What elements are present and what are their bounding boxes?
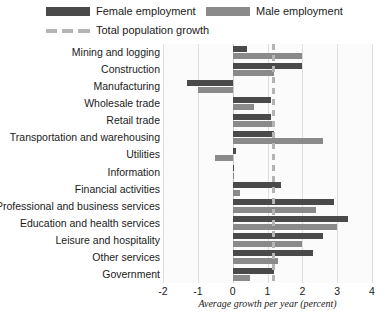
bar-row: [163, 164, 372, 181]
category-label: Mining and logging: [72, 44, 160, 61]
x-tick-label: 4: [369, 285, 375, 297]
bar-male: [233, 173, 234, 179]
bar-female: [233, 268, 275, 274]
legend-label-total-population-growth: Total population growth: [96, 25, 209, 36]
category-label: Professional and business services: [0, 198, 160, 215]
x-tick-label: 3: [334, 285, 340, 297]
legend-item-total-population-growth: Total population growth: [46, 25, 209, 36]
bar-row: [163, 215, 372, 232]
bar-male: [233, 275, 250, 281]
bar-male: [233, 70, 275, 76]
bar-chart: Female employment Male employment Total …: [0, 0, 385, 319]
legend-label-male-employment: Male employment: [256, 6, 343, 17]
plot-area: [163, 44, 372, 283]
bar-male: [233, 138, 324, 144]
bar-male: [233, 121, 275, 127]
category-label: Manufacturing: [93, 78, 160, 95]
legend-label-female-employment: Female employment: [96, 6, 196, 17]
category-label: Transportation and warehousing: [10, 129, 160, 146]
x-tick-label: -2: [158, 285, 167, 297]
bar-male: [233, 241, 303, 247]
bar-row: [163, 61, 372, 78]
legend-item-male-employment: Male employment: [206, 6, 343, 17]
bar-row: [163, 95, 372, 112]
solid-dark-swatch-icon: [46, 7, 90, 16]
bar-female: [233, 63, 303, 69]
bar-male: [215, 155, 232, 161]
bar-row: [163, 249, 372, 266]
bar-female: [233, 165, 234, 171]
bar-rows: [163, 44, 372, 283]
category-label: Utilities: [126, 146, 160, 163]
bar-female: [233, 131, 275, 137]
x-axis-ticks: -2-101234: [163, 285, 372, 299]
category-label: Wholesale trade: [84, 95, 160, 112]
bar-row: [163, 232, 372, 249]
bar-row: [163, 78, 372, 95]
bar-female: [233, 199, 334, 205]
x-tick-label: 0: [230, 285, 236, 297]
bar-row: [163, 266, 372, 283]
category-label: Financial activities: [75, 181, 160, 198]
bar-male: [233, 104, 254, 110]
bar-female: [187, 80, 232, 86]
bar-female: [233, 114, 271, 120]
category-label: Leisure and hospitality: [56, 232, 160, 249]
bar-row: [163, 146, 372, 163]
bar-female: [233, 216, 348, 222]
category-label: Government: [102, 266, 160, 283]
solid-gray-swatch-icon: [206, 7, 250, 16]
bar-row: [163, 181, 372, 198]
bar-male: [198, 87, 233, 93]
x-axis-label: Average growth per year (percent): [163, 298, 372, 309]
gridline-4: [372, 44, 373, 283]
bar-row: [163, 198, 372, 215]
total-population-growth-reference-line: [272, 44, 275, 283]
x-tick-label: -1: [193, 285, 202, 297]
bar-row: [163, 129, 372, 146]
bar-female: [233, 97, 271, 103]
dashed-line-swatch-icon: [46, 26, 90, 35]
bar-row: [163, 44, 372, 61]
category-label: Retail trade: [106, 112, 160, 129]
category-label: Construction: [101, 61, 160, 78]
bar-male: [233, 224, 338, 230]
bar-male: [233, 190, 240, 196]
bar-row: [163, 112, 372, 129]
x-tick-label: 2: [299, 285, 305, 297]
category-label: Information: [107, 164, 160, 181]
x-tick-label: 1: [265, 285, 271, 297]
chart-legend: Female employment Male employment Total …: [0, 0, 385, 44]
bar-female: [233, 233, 324, 239]
legend-item-female-employment: Female employment: [46, 6, 196, 17]
bar-male: [233, 53, 303, 59]
category-label: Education and health services: [20, 215, 160, 232]
bar-female: [233, 148, 236, 154]
category-axis-labels: Mining and loggingConstructionManufactur…: [0, 44, 160, 283]
category-label: Other services: [92, 249, 160, 266]
bar-female: [233, 46, 247, 52]
